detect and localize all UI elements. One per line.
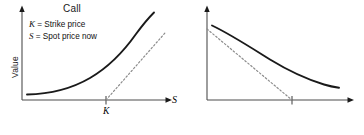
legend-text-strike: Strike price [44,20,85,29]
legend-equals-s: = [34,32,43,41]
call-chart-panel: Call K = Strike price S = Spot price now… [0,0,182,135]
call-x-axis-label: S [172,94,177,105]
put-chart-graphic [182,0,364,135]
call-x-axis [22,97,172,102]
legend-row-spot: S = Spot price now [29,31,97,43]
call-k-tick-label: K [103,106,109,116]
options-value-figure: Call K = Strike price S = Spot price now… [0,0,364,135]
put-value-curve [212,26,339,88]
put-chart-panel: Put Value S K [182,0,364,135]
legend-equals-k: = [35,20,44,29]
put-x-axis [207,97,354,102]
call-y-axis [19,6,24,101]
call-chart-title: Call [63,3,81,15]
call-y-axis-label: Value [10,56,20,78]
symbol-legend: K = Strike price S = Spot price now [29,19,97,42]
put-y-axis [204,6,209,101]
legend-text-spot: Spot price now [43,32,97,41]
legend-row-strike: K = Strike price [29,19,97,31]
call-payoff-dotted-line [106,33,165,100]
